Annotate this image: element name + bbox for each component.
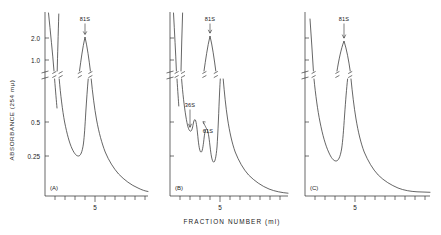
y-axis-title: ABSORBANCE (254 mμ) xyxy=(8,80,15,161)
panel-a-label: (A) xyxy=(50,185,58,191)
panel-b-break-marks xyxy=(175,71,218,77)
y-tick-label-3: 0.25 xyxy=(28,153,41,160)
panel-c-trace-upper xyxy=(310,19,313,71)
panel-a-break-marks xyxy=(52,71,92,77)
y-tick-label-0: 2.0 xyxy=(31,35,40,42)
panel-c-peak81s-upper xyxy=(337,41,350,71)
panel-b-peak-label-81s: 81S xyxy=(205,16,216,22)
panel-b-trace-upper-2 xyxy=(181,13,183,71)
panel-c-label: (C) xyxy=(310,185,318,191)
panel-b: 5 (B) 81S 36S 61S xyxy=(167,12,289,211)
panel-b-peak81s-upper xyxy=(204,36,216,71)
panel-a-x-ticks xyxy=(55,196,145,202)
panel-b-x-tick-label: 5 xyxy=(218,204,222,211)
panel-b-x-ticks xyxy=(180,196,280,202)
panel-c-trace-lower xyxy=(314,79,430,192)
panel-a: 5 (A) 81S xyxy=(45,13,148,211)
panel-c-x-ticks xyxy=(315,196,425,202)
panel-b-peak-label-36s: 36S xyxy=(185,102,196,108)
panel-b-peak-label-61s: 61S xyxy=(203,128,214,134)
panel-c: 5 (C) 81S xyxy=(302,12,431,211)
panel-c-x-tick-label: 5 xyxy=(353,204,357,211)
panel-c-break-marks xyxy=(312,71,353,77)
y-axis-group: 2.0 1.0 0.5 0.25 xyxy=(28,12,49,196)
panel-a-peak81s-upper xyxy=(80,37,91,71)
panel-a-trace-lower xyxy=(55,79,148,192)
x-axis-title: FRACTION NUMBER (ml) xyxy=(184,218,281,226)
panel-c-peak-label-81s: 81S xyxy=(339,16,350,22)
panel-b-trace-lower xyxy=(177,79,288,193)
panel-b-trace-upper xyxy=(174,13,177,71)
y-tick-label-1: 1.0 xyxy=(31,57,40,64)
panel-b-label: (B) xyxy=(175,185,183,191)
chromatogram-figure: ABSORBANCE (254 mμ) 2.0 1.0 0.5 0.25 xyxy=(0,0,441,235)
panel-a-trace-upper-2 xyxy=(57,14,59,71)
figure-root: ABSORBANCE (254 mμ) 2.0 1.0 0.5 0.25 xyxy=(0,0,441,235)
panel-a-peak-label-81s: 81S xyxy=(80,16,91,22)
y-tick-label-2: 0.5 xyxy=(31,119,40,126)
panel-a-trace-upper xyxy=(49,13,55,71)
panel-a-x-tick-label: 5 xyxy=(93,204,97,211)
